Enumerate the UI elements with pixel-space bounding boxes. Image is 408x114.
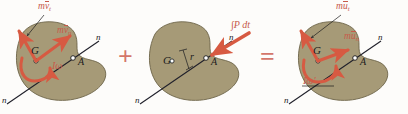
label-contact-panel2: A	[211, 57, 217, 67]
diagram-canvas	[0, 0, 408, 114]
label-axis-top-panel1: n	[96, 33, 101, 42]
label-mv-n-sub: n	[68, 29, 71, 36]
label-moment-arm-panel2: r	[190, 52, 194, 62]
label-axis-top-panel2: n	[229, 33, 234, 42]
label-mu-t-sub: t	[348, 5, 350, 12]
label-mv-n-panel1: mvn	[57, 26, 72, 36]
vector-overbar-mvt	[45, 1, 49, 2]
contact-marker-1	[71, 56, 76, 61]
label-axis-top-panel3: n	[378, 33, 383, 42]
label-mv-t-panel1: mvt	[38, 2, 51, 12]
label-mu-t-panel3: mut	[336, 2, 350, 12]
label-centroid-panel3: G	[313, 45, 321, 56]
label-mu-n-panel3: mun	[344, 32, 359, 42]
label-mv-t-prefix: m	[38, 1, 45, 11]
label-mu-t-prefix: m	[336, 1, 343, 11]
label-axis-bottom-panel1: n	[2, 96, 7, 105]
label-contact-panel1: A	[78, 57, 84, 67]
vector-overbar-mvn	[64, 25, 68, 26]
label-spin-prime-panel3: '	[313, 75, 315, 86]
label-mv-t-symbol: v	[45, 1, 49, 11]
label-mv-t-sub: t	[49, 5, 51, 12]
label-spin-panel1: Iω	[52, 61, 62, 71]
label-centroid-panel1: G	[31, 45, 39, 56]
vector-overbar-mun	[351, 31, 356, 32]
label-mv-n-prefix: m	[57, 25, 64, 35]
label-contact-panel3: A	[360, 57, 366, 67]
label-centroid-panel2: G	[163, 55, 171, 66]
label-spin-omega-panel1: ω	[55, 60, 62, 71]
label-impulse-panel2: ∫P dt	[231, 20, 250, 30]
label-axis-bottom-panel3: n	[284, 96, 289, 105]
label-mu-n-prefix: m	[344, 31, 351, 41]
label-mu-n-sub: n	[356, 35, 359, 42]
contact-marker-3	[353, 56, 358, 61]
contact-marker-2	[204, 56, 209, 61]
label-mu-n-symbol: u	[351, 31, 356, 41]
impulse-momentum-figure: + = mvt mvn G A Iω n n ∫P dt G r A n n m…	[0, 0, 408, 114]
vector-overbar-mut	[343, 1, 348, 2]
panel-3-group	[289, 15, 388, 104]
label-spin-panel3: Iω'	[303, 76, 316, 86]
label-axis-bottom-panel2: n	[135, 96, 140, 105]
equals-operator: =	[260, 44, 275, 70]
plus-operator: +	[118, 44, 133, 70]
label-mv-n-symbol: v	[64, 25, 68, 35]
label-mu-t-symbol: u	[343, 1, 348, 11]
